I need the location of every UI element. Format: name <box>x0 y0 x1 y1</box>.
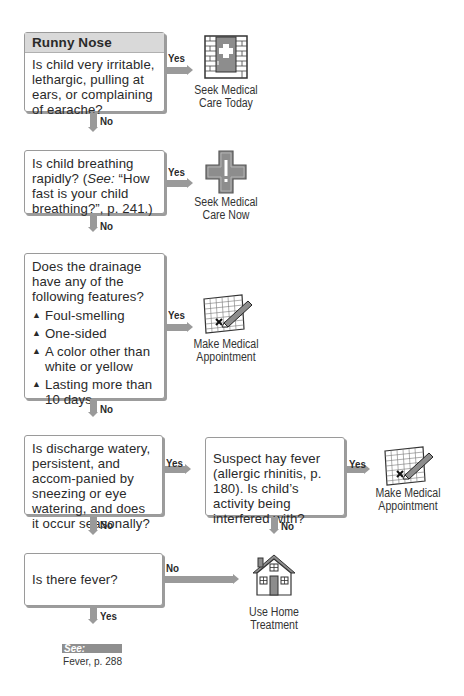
yes-label: Yes <box>168 166 185 178</box>
no-label: No <box>100 115 113 127</box>
yes-label: Yes <box>100 610 117 622</box>
question-text: Is there fever? <box>32 572 155 587</box>
yes-arrow <box>166 67 187 74</box>
list-item: Foul-smelling <box>32 308 157 323</box>
yes-arrow <box>166 180 187 187</box>
no-label: No <box>100 403 113 415</box>
yes-arrow <box>90 607 97 619</box>
no-arrow <box>164 576 233 583</box>
flowchart-title: Runny Nose <box>25 33 164 53</box>
no-label: No <box>281 520 294 532</box>
no-arrow <box>90 516 97 530</box>
outcome-caption: Seek Medical Care Now <box>182 196 270 222</box>
feature-list: Foul-smelling One-sided A color other th… <box>32 308 157 407</box>
list-item: One-sided <box>32 326 157 341</box>
question-text: Does the drainage have any of the follow… <box>32 259 157 304</box>
no-arrow <box>90 113 97 127</box>
question-box-fever: Is there fever? <box>24 553 163 606</box>
see-reference-link[interactable]: Fever, p. 288 <box>63 655 122 667</box>
see-italic: See: <box>87 171 115 186</box>
doctor-office-door-icon <box>204 35 248 79</box>
home-icon <box>251 553 297 597</box>
question-text: Suspect hay fever (allergic rhinitis, p.… <box>213 451 337 526</box>
outcome-caption: Seek Medical Care Today <box>182 84 270 110</box>
question-box-drainage: Does the drainage have any of the follow… <box>24 253 165 399</box>
question-box-breathing: Is child breathing rapidly? (See: “How f… <box>24 150 165 214</box>
see-tag: See: <box>62 644 122 653</box>
calendar-appointment-icon <box>383 445 435 487</box>
question-box-earache: Runny Nose Is child very irritable, leth… <box>24 32 165 112</box>
no-label: No <box>166 562 179 574</box>
list-item: A color other than white or yellow <box>32 344 157 374</box>
outcome-caption: Make Medical Appointment <box>364 487 452 513</box>
question-text: Is child very irritable, lethargic, pull… <box>32 57 157 117</box>
outcome-caption: Make Medical Appointment <box>182 338 270 364</box>
yes-arrow <box>166 324 187 331</box>
outcome-caption: Use Home Treatment <box>230 606 318 632</box>
no-label: No <box>100 220 113 232</box>
question-box-hay-fever: Suspect hay fever (allergic rhinitis, p.… <box>205 437 345 516</box>
question-box-watery-discharge: Is discharge watery, persistent, and acc… <box>24 435 163 515</box>
emergency-cross-icon <box>205 150 247 194</box>
yes-label: Yes <box>168 52 185 64</box>
yes-label: Yes <box>349 458 366 470</box>
no-arrow <box>90 400 97 412</box>
no-arrow <box>90 215 97 227</box>
yes-label: Yes <box>166 457 183 469</box>
no-label: No <box>100 519 113 531</box>
calendar-appointment-icon <box>202 293 254 335</box>
no-arrow <box>271 517 278 529</box>
yes-label: Yes <box>168 309 185 321</box>
